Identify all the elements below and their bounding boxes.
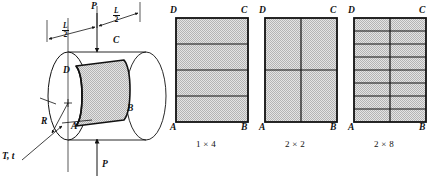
mesh-2x8-caption: 2 × 8 (374, 140, 394, 149)
figure-root: P P C D B A R T, t L 2 L 2 D C A B 1 × 4… (0, 0, 437, 185)
shell-panel-abcd (76, 60, 130, 126)
mesh-2x8-graphic (354, 18, 426, 122)
mesh-1x4-corner-d: D (170, 6, 177, 16)
mesh-2x8-corner-a: A (348, 123, 354, 133)
dimension-left-half: L 2 (62, 22, 69, 39)
mesh-1x4-caption: 1 × 4 (196, 140, 216, 149)
figure-bottom-caption (14, 178, 164, 185)
mesh-1x4-corner-c: C (241, 6, 247, 16)
mesh-1x4-corner-a: A (170, 123, 176, 133)
dimension-right-half: L 2 (113, 7, 120, 24)
dimension-right-denominator: 2 (113, 16, 120, 24)
cylinder-corner-d: D (63, 66, 70, 76)
thickness-leader (22, 126, 62, 160)
mesh-2x2-caption: 2 × 2 (285, 140, 305, 149)
radius-label: R (41, 117, 47, 127)
mesh-2x8-corner-b: B (419, 123, 425, 133)
load-label-bottom: P (102, 160, 108, 170)
thickness-label: T, t (2, 152, 14, 162)
cylinder-corner-a: A (71, 122, 77, 132)
cylinder-corner-b: B (127, 104, 133, 114)
dimension-left-denominator: 2 (62, 31, 69, 39)
mesh-1x4-corner-b: B (241, 123, 247, 133)
load-label-top: P (91, 2, 97, 12)
mesh-2x2-corner-a: A (259, 123, 265, 133)
cylinder-corner-c: C (113, 36, 119, 46)
mesh-2x8-corner-c: C (419, 6, 425, 16)
mesh-2x8-corner-d: D (348, 6, 355, 16)
mesh-2x2-corner-c: C (330, 6, 336, 16)
mesh-2x2-corner-d: D (259, 6, 266, 16)
mesh-1x4-graphic (176, 18, 248, 122)
mesh-2x2-graphic (265, 18, 337, 122)
mesh-2x2-corner-b: B (330, 123, 336, 133)
